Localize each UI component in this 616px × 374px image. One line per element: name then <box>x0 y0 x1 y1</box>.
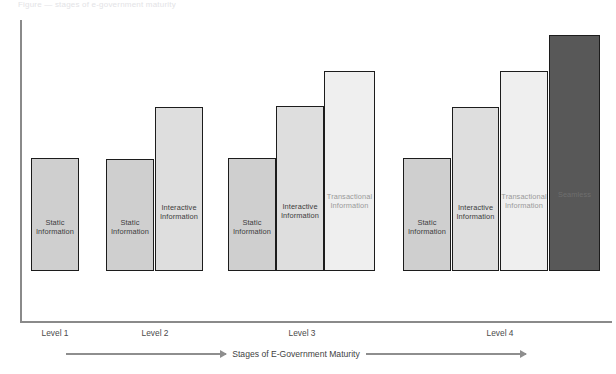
level-label-3: Level 3 <box>288 328 315 338</box>
bar-label: Interactive Information <box>158 203 200 221</box>
bar-3-1: Static Information <box>228 158 276 271</box>
level-label-2: Level 2 <box>141 328 168 338</box>
maturity-arrow-row: Stages of E-Government Maturity <box>66 347 526 361</box>
bar-label: Transactional Information <box>500 192 548 210</box>
bar-label: Static Information <box>109 218 151 236</box>
level-label-1: Level 1 <box>41 328 68 338</box>
plot-area: Static InformationStatic InformationInte… <box>0 0 616 323</box>
bar-2-2: Interactive Information <box>155 107 203 271</box>
bar-3-2: Interactive Information <box>276 106 324 271</box>
bar-label: Static Information <box>34 218 76 236</box>
bar-4-2: Interactive Information <box>452 107 499 271</box>
bar-label: Interactive Information <box>454 203 496 221</box>
figure-root: Figure — stages of e-government maturity… <box>0 0 616 374</box>
bar-label: Static Information <box>231 218 273 236</box>
bar-label: Static Information <box>406 218 448 236</box>
bar-label: Transactional Information <box>325 192 374 210</box>
arrow-left-icon <box>66 353 226 354</box>
arrow-right-icon <box>366 353 526 354</box>
bar-4-3: Transactional Information <box>500 71 548 271</box>
bar-4-1: Static Information <box>403 158 451 271</box>
bar-4-4: Seamless <box>549 35 600 271</box>
bar-3-3: Transactional Information <box>324 71 375 271</box>
bar-2-1: Static Information <box>106 159 154 271</box>
bar-label: Seamless <box>556 190 593 199</box>
x-axis-title: Stages of E-Government Maturity <box>226 349 366 359</box>
bar-1-1: Static Information <box>31 158 79 271</box>
level-label-4: Level 4 <box>486 328 513 338</box>
bar-label: Interactive Information <box>279 202 321 220</box>
